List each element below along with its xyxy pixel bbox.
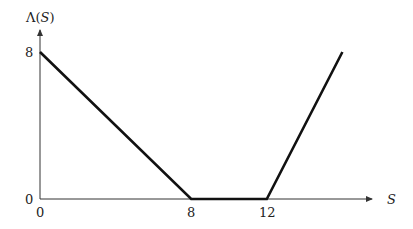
chart: Λ(S) S 8 0 0 8 12 [0,0,413,229]
lambda-curve [40,52,342,199]
xtick-8: 8 [187,205,195,220]
xtick-0: 0 [36,205,44,220]
xtick-12: 12 [259,205,276,220]
y-axis-label: Λ(S) [25,10,54,25]
x-axis-label: S [387,192,396,207]
ytick-0: 0 [25,192,33,207]
ytick-8: 8 [25,45,33,60]
